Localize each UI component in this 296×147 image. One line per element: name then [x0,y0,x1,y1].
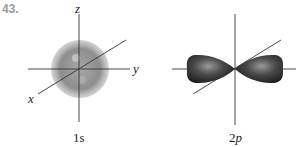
x-axis-label: x [27,91,34,106]
diagram-2p: 2p [172,14,296,145]
caption-1s: 1s [73,130,85,145]
y-axis-label: y [131,61,139,76]
orbital-diagrams: z y x 1s 2p [0,0,296,147]
lobe-right [235,55,283,83]
lobe-left [187,55,235,83]
diagram-1s: z y x 1s [27,1,139,145]
caption-2p: 2p [229,130,243,145]
z-axis-label: z [74,1,80,16]
